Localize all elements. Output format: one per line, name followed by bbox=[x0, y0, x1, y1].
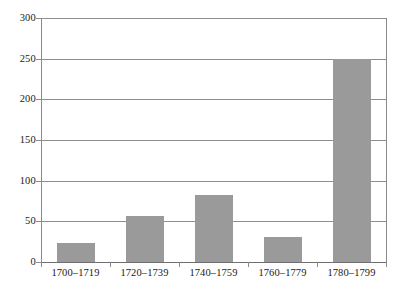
bar-1720–1739[interactable] bbox=[126, 216, 164, 262]
y-tick-label: 50 bbox=[25, 216, 36, 227]
x-tick-label: 1760–1779 bbox=[258, 268, 306, 279]
x-tick-mark-2 bbox=[179, 262, 180, 267]
y-tick-mark-250 bbox=[36, 59, 41, 60]
bar-1740–1759[interactable] bbox=[195, 195, 233, 263]
y-tick-label: 250 bbox=[20, 53, 36, 64]
y-tick-label: 0 bbox=[31, 257, 36, 268]
x-tick-mark-3 bbox=[248, 262, 249, 267]
bar-1780–1799[interactable] bbox=[333, 59, 371, 262]
x-tick-mark-5 bbox=[386, 262, 387, 267]
plot-right-border bbox=[386, 18, 387, 263]
y-tick-label: 200 bbox=[20, 94, 36, 105]
x-tick-label: 1700–1719 bbox=[51, 268, 99, 279]
x-tick-label: 1740–1759 bbox=[189, 268, 237, 279]
y-tick-mark-300 bbox=[36, 18, 41, 19]
y-tick-label: 100 bbox=[20, 175, 36, 186]
gridline-0 bbox=[41, 262, 386, 263]
bar-1700–1719[interactable] bbox=[57, 243, 95, 262]
y-tick-mark-200 bbox=[36, 99, 41, 100]
y-tick-mark-100 bbox=[36, 181, 41, 182]
y-tick-mark-150 bbox=[36, 140, 41, 141]
bar-1760–1779[interactable] bbox=[264, 237, 302, 262]
bar-chart: 050100150200250300 1700–17191720–1739174… bbox=[0, 0, 399, 294]
gridline-300 bbox=[41, 18, 386, 19]
y-tick-label: 150 bbox=[20, 135, 36, 146]
x-tick-label: 1780–1799 bbox=[327, 268, 375, 279]
y-tick-mark-50 bbox=[36, 221, 41, 222]
x-tick-label: 1720–1739 bbox=[120, 268, 168, 279]
x-tick-mark-0 bbox=[41, 262, 42, 267]
x-tick-mark-1 bbox=[110, 262, 111, 267]
x-tick-mark-4 bbox=[317, 262, 318, 267]
plot-area bbox=[41, 18, 386, 262]
y-tick-label: 300 bbox=[20, 13, 36, 24]
